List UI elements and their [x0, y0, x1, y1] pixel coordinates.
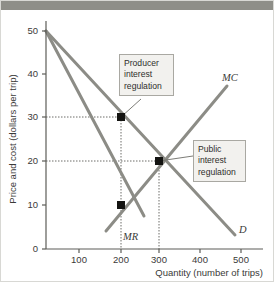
y-tick-label-40: 40 [27, 68, 38, 79]
y-tick-label-30: 30 [27, 111, 38, 122]
y-tick-label-50: 50 [27, 25, 38, 36]
y-tick-labels: 0 10 20 30 40 50 [27, 25, 38, 254]
x-tick-label-400: 400 [192, 254, 208, 265]
producer-callout-line-3: regulation [124, 81, 169, 92]
producer-interest-regulation-callout: Producer interest regulation [119, 54, 174, 96]
x-axis-title: Quantity (number of trips) [155, 267, 263, 278]
x-tick-labels: 100 200 300 400 500 [71, 254, 249, 265]
public-interest-point [155, 157, 163, 165]
public-interest-regulation-callout: Public interest regulation [193, 140, 246, 182]
x-tick-label-300: 300 [151, 254, 167, 265]
marginal-revenue-label: MR [122, 231, 139, 242]
x-tick-label-200: 200 [113, 254, 129, 265]
chart-figure: 0 10 20 30 40 50 100 200 300 400 500 Qua… [0, 0, 274, 282]
marginal-cost-label: MC [221, 72, 239, 83]
y-axis-title: Price and cost (dollars per trip) [7, 74, 18, 203]
producer-callout-line-1: Producer [124, 58, 169, 69]
y-tick-label-0: 0 [33, 243, 38, 254]
x-tick-label-500: 500 [233, 254, 249, 265]
producer-interest-point [117, 113, 125, 121]
y-tick-label-10: 10 [27, 199, 38, 210]
monopoly-mr-mc-point [117, 201, 125, 209]
x-axis-ticks [79, 249, 241, 253]
demand-label: D [238, 224, 247, 235]
public-callout-line-2: interest [198, 155, 241, 166]
y-tick-label-20: 20 [27, 155, 38, 166]
public-callout-line-1: Public [198, 144, 241, 155]
public-callout-line-3: regulation [198, 167, 241, 178]
x-tick-label-100: 100 [71, 254, 87, 265]
producer-callout-line-2: interest [124, 69, 169, 80]
